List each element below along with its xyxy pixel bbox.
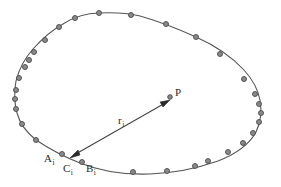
curve-point [73,16,78,21]
curve-point-a [60,152,65,157]
curve-point [14,88,19,93]
curve-point [20,122,25,127]
curve-point [164,22,169,27]
curve-point [23,65,28,70]
figure-canvas: P ri Ai Ci Bi [0,0,281,187]
curve-path [15,13,261,175]
label-point-p: P [175,87,181,98]
arrowhead-toward-c-icon [70,150,80,158]
curve-point [253,92,258,97]
label-vertex-c-subscript: i [71,168,73,177]
point-p-marker [168,95,173,100]
curve-point [193,164,198,169]
label-vertex-b: Bi [86,163,96,174]
label-vertex-b-subscript: i [94,168,96,177]
label-vertex-c: Ci [63,163,73,174]
radius-line [74,102,167,155]
curve-point [13,97,18,102]
closed-curve [15,13,261,175]
curve-sample-markers [13,11,264,175]
curve-point [32,50,37,55]
curve-point [131,170,136,175]
curve-point [27,58,32,63]
curve-point [257,120,262,125]
curve-point [242,77,247,82]
curve-point [43,38,48,43]
arrowhead-toward-p-icon [160,100,170,107]
curve-point [218,52,223,57]
diagram-svg [0,0,281,187]
curve-point [97,11,102,16]
curve-point [17,76,22,81]
curve-point [34,138,39,143]
curve-point [57,25,62,30]
curve-point [251,131,256,136]
curve-point [259,111,264,116]
curve-point [194,35,199,40]
radius-vector [70,100,170,158]
curve-point [14,107,19,112]
curve-point [226,150,231,155]
curve-point [206,159,211,164]
curve-point-b [80,160,85,165]
label-radius-ri: ri [118,115,124,126]
curve-point [129,13,134,18]
label-vertex-a-subscript: i [52,158,54,167]
curve-point [257,102,262,107]
curve-point [241,141,246,146]
label-vertex-a: Ai [44,153,54,164]
curve-point [165,169,170,174]
